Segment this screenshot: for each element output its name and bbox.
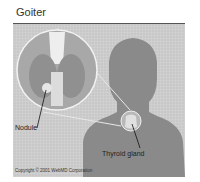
- anatomy-illustration: [13, 24, 185, 177]
- goiter-illustration: Nodule Thyroid gland Copyright © 2001 We…: [13, 24, 185, 177]
- thyroid-gland-label: Thyroid gland: [102, 150, 144, 157]
- nodule-mark: [42, 83, 52, 93]
- figure-title: Goiter: [16, 6, 46, 18]
- nodule-label: Nodule: [15, 124, 37, 131]
- copyright-text: Copyright © 2001 WebMD Corporation: [15, 168, 92, 173]
